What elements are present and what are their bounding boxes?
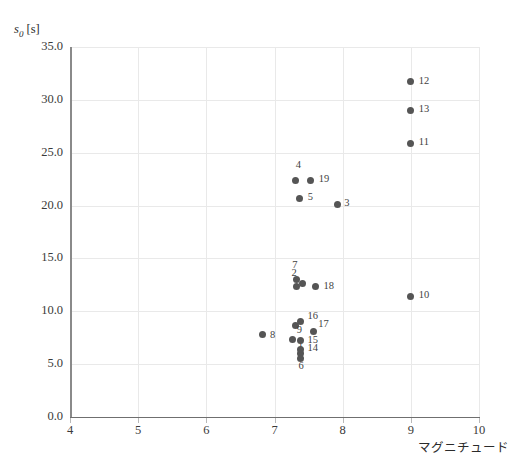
y-axis-tick-label: 5.0 xyxy=(47,356,63,371)
data-point-label: 5 xyxy=(308,191,313,202)
x-axis-tick-label: 9 xyxy=(396,423,426,438)
gridline-vertical xyxy=(479,47,480,417)
plot-area: 12345678910111213141516171819 xyxy=(70,47,479,417)
y-axis-tick-label: 30.0 xyxy=(41,92,63,107)
y-axis-tick-label: 20.0 xyxy=(41,198,63,213)
x-axis-title: マグニチュード xyxy=(418,437,509,456)
scatter-chart-figure: s0 [s] 0.05.010.015.020.025.030.035.0 12… xyxy=(0,0,532,475)
data-point[interactable] xyxy=(292,177,299,184)
data-point[interactable] xyxy=(312,283,319,290)
data-point-label: 10 xyxy=(419,289,430,300)
data-point-label: 15 xyxy=(307,334,318,345)
data-point-label: 3 xyxy=(344,197,349,208)
x-axis-tick-mark xyxy=(411,418,412,423)
x-axis-tick-label: 10 xyxy=(464,423,494,438)
data-point[interactable] xyxy=(407,107,414,114)
data-point-label: 17 xyxy=(318,318,329,329)
gridline-vertical xyxy=(138,47,139,417)
x-axis-tick-mark xyxy=(479,418,480,423)
data-point-label: 13 xyxy=(419,103,430,114)
data-point-label: 7 xyxy=(292,259,297,270)
y-axis-tick-labels: 0.05.010.015.020.025.030.035.0 xyxy=(0,0,63,475)
x-axis-tick-label: 7 xyxy=(260,423,290,438)
data-point-label: 19 xyxy=(319,173,330,184)
data-point[interactable] xyxy=(289,336,296,343)
data-point[interactable] xyxy=(407,78,414,85)
x-axis-tick-label: 6 xyxy=(191,423,221,438)
data-point[interactable] xyxy=(407,293,414,300)
y-axis-tick-label: 35.0 xyxy=(41,39,63,54)
gridline-vertical xyxy=(206,47,207,417)
data-point-label: 16 xyxy=(307,310,318,321)
y-axis-tick-label: 0.0 xyxy=(47,409,63,424)
y-axis-tick-label: 10.0 xyxy=(41,303,63,318)
data-point[interactable] xyxy=(334,201,341,208)
data-point[interactable] xyxy=(297,346,304,353)
gridline-vertical xyxy=(343,47,344,417)
y-axis-line xyxy=(70,47,72,418)
data-point-label: 11 xyxy=(419,136,429,147)
y-axis-tick-label: 15.0 xyxy=(41,250,63,265)
data-point-label: 18 xyxy=(323,280,334,291)
gridline-vertical xyxy=(411,47,412,417)
data-point-label: 8 xyxy=(270,329,275,340)
data-point-label: 6 xyxy=(298,360,303,371)
data-point[interactable] xyxy=(259,331,266,338)
data-point[interactable] xyxy=(307,177,314,184)
x-axis-tick-mark xyxy=(275,418,276,423)
data-point[interactable] xyxy=(296,195,303,202)
x-axis-tick-label: 8 xyxy=(328,423,358,438)
data-point[interactable] xyxy=(407,140,414,147)
x-axis-tick-label: 5 xyxy=(123,423,153,438)
data-point-label: 4 xyxy=(296,159,301,170)
x-axis-tick-mark xyxy=(70,418,71,423)
x-axis-tick-mark xyxy=(343,418,344,423)
data-point-label: 9 xyxy=(297,324,302,335)
y-axis-tick-label: 25.0 xyxy=(41,145,63,160)
data-point[interactable] xyxy=(297,318,304,325)
x-axis-tick-mark xyxy=(206,418,207,423)
x-axis-tick-mark xyxy=(138,418,139,423)
x-axis-tick-label: 4 xyxy=(55,423,85,438)
data-point[interactable] xyxy=(310,328,317,335)
data-point-label: 12 xyxy=(419,75,430,86)
data-point[interactable] xyxy=(299,280,306,287)
gridline-vertical xyxy=(275,47,276,417)
data-point[interactable] xyxy=(293,276,300,283)
